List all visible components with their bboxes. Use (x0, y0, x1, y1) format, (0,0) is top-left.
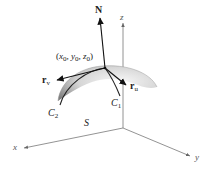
x-axis (24, 128, 123, 148)
point-label: (x0, y0, z0) (56, 52, 93, 63)
point-x0-y0-z0 (104, 67, 107, 70)
ru-sub: u (134, 85, 138, 93)
c1-main: C (111, 97, 118, 108)
c2-sub: 2 (55, 112, 59, 120)
y-axis (123, 128, 190, 156)
rv-sub: v (46, 79, 50, 87)
c1-sub: 1 (118, 102, 122, 110)
c1-label: C1 (111, 98, 121, 110)
c2-main: C (48, 107, 55, 118)
rv-label: rv (42, 75, 50, 87)
z-axis-label: z (120, 13, 124, 22)
diagram-canvas (0, 0, 207, 176)
surface-diagram: N z (x0, y0, z0) rv ru C1 C2 S x y (0, 0, 207, 176)
coordinate-axes (24, 23, 190, 156)
x-axis-label: x (13, 143, 17, 152)
y-label-text: y (195, 152, 199, 162)
paren-close: ) (90, 51, 93, 61)
s-label-text: S (84, 117, 89, 128)
ru-label: ru (130, 81, 138, 93)
normal-vector-n (100, 18, 105, 68)
z-label-text: z (120, 12, 124, 22)
surface-label: S (84, 118, 89, 128)
y-axis-label: y (195, 153, 199, 162)
x-label-text: x (13, 142, 17, 152)
normal-vector-label: N (95, 5, 102, 15)
c2-label: C2 (48, 108, 58, 120)
n-label-text: N (95, 4, 102, 15)
